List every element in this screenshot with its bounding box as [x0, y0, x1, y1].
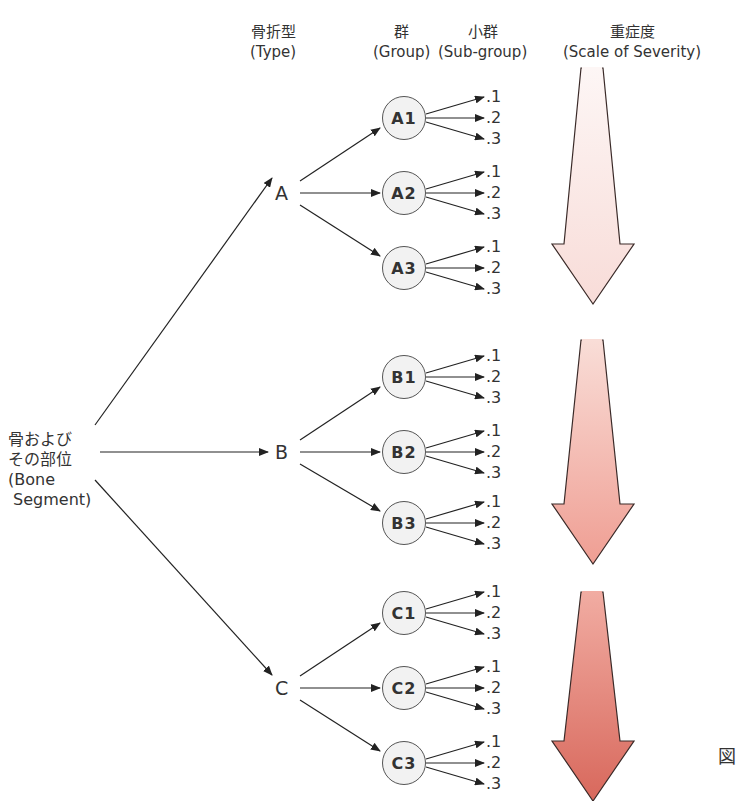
header-type: 骨折型 (Type) [250, 22, 296, 62]
subgroup-b2-3: .3 [486, 464, 501, 482]
group-node-c2: C2 [382, 666, 426, 710]
group-node-b2: B2 [382, 430, 426, 474]
group-node-c3: C3 [382, 741, 426, 785]
subgroup-a1-1: .1 [486, 88, 501, 106]
subgroup-a2-2: .2 [486, 184, 501, 202]
subgroup-b1-2: .2 [486, 368, 501, 386]
header-type-ja: 骨折型 [250, 22, 296, 42]
root-line-3: (Bone [8, 470, 91, 490]
header-type-en: (Type) [250, 42, 296, 62]
root-line-1: 骨および [8, 430, 91, 450]
subgroup-c1-1: .1 [486, 583, 501, 601]
subgroup-b2-2: .2 [486, 443, 501, 461]
header-subgroup-ja: 小群 [438, 22, 527, 42]
root-line-4: Segment) [8, 490, 91, 510]
subgroup-c2-2: .2 [486, 679, 501, 697]
subgroup-c1-3: .3 [486, 625, 501, 643]
header-subgroup-en: (Sub-group) [438, 42, 527, 62]
type-c: C [275, 678, 288, 698]
subgroup-a3-3: .3 [486, 280, 501, 298]
header-subgroup: 小群 (Sub-group) [438, 22, 527, 62]
root-bone-segment: 骨および その部位 (Bone Segment) [8, 430, 91, 510]
subgroup-a3-2: .2 [486, 259, 501, 277]
subgroup-b3-3: .3 [486, 535, 501, 553]
subgroup-b3-1: .1 [486, 493, 501, 511]
subgroup-c1-2: .2 [486, 604, 501, 622]
group-node-c1: C1 [382, 591, 426, 635]
subgroup-c3-1: .1 [486, 733, 501, 751]
header-severity-ja: 重症度 [563, 22, 701, 42]
subgroup-a1-3: .3 [486, 130, 501, 148]
subgroup-c2-3: .3 [486, 700, 501, 718]
subgroup-b3-2: .2 [486, 514, 501, 532]
subgroup-a2-1: .1 [486, 163, 501, 181]
header-group-en: (Group) [373, 42, 430, 62]
header-group: 群 (Group) [373, 22, 430, 62]
subgroup-a3-1: .1 [486, 238, 501, 256]
severity-arrow-b [552, 340, 634, 564]
header-severity-en: (Scale of Severity) [563, 42, 701, 62]
header-severity: 重症度 (Scale of Severity) [563, 22, 701, 62]
type-b: B [275, 442, 288, 462]
type-a: A [275, 183, 288, 203]
severity-arrow-c [552, 592, 634, 801]
severity-arrow-a [552, 68, 634, 304]
subgroup-c2-1: .1 [486, 658, 501, 676]
header-group-ja: 群 [373, 22, 430, 42]
group-node-a2: A2 [382, 171, 426, 215]
subgroup-b2-1: .1 [486, 422, 501, 440]
group-node-b1: B1 [382, 355, 426, 399]
group-node-a1: A1 [382, 96, 426, 140]
figure-label-cut: 図 [718, 742, 736, 768]
subgroup-a2-3: .3 [486, 205, 501, 223]
group-node-b3: B3 [382, 501, 426, 545]
group-node-a3: A3 [382, 246, 426, 290]
subgroup-c3-2: .2 [486, 754, 501, 772]
subgroup-b1-3: .3 [486, 389, 501, 407]
root-line-2: その部位 [8, 450, 91, 470]
subgroup-c3-3: .3 [486, 775, 501, 793]
subgroup-b1-1: .1 [486, 347, 501, 365]
subgroup-a1-2: .2 [486, 109, 501, 127]
